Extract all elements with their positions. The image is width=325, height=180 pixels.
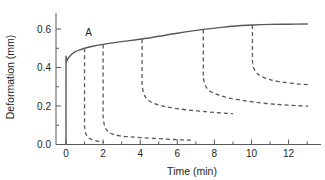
- chart-annotations: A: [85, 27, 92, 38]
- chart-canvas: 024681012 0.00.20.40.6 A Time (min) Defo…: [0, 0, 325, 180]
- creep-recovery-chart: 024681012 0.00.20.40.6 A Time (min) Defo…: [0, 0, 325, 180]
- y-tick-labels: 0.00.20.40.6: [37, 24, 51, 151]
- x-tick-label: 2: [100, 148, 106, 159]
- x-tick-label: 4: [137, 148, 143, 159]
- x-tick-label: 12: [283, 148, 295, 159]
- recovery-unload-4: [203, 29, 308, 106]
- y-tick-label: 0.2: [37, 101, 51, 112]
- data-series: [66, 24, 308, 145]
- recovery-unload-3: [142, 39, 233, 114]
- x-tick-label: 6: [175, 148, 181, 159]
- x-tick-label: 8: [212, 148, 218, 159]
- x-tick-label: 0: [63, 148, 69, 159]
- recovery-unload-5: [252, 25, 308, 85]
- x-axis-title: Time (min): [167, 165, 217, 177]
- axes: [56, 13, 321, 145]
- recovery-unload-2: [103, 44, 192, 140]
- creep-curve: [66, 24, 307, 145]
- point-a-label: A: [85, 27, 92, 38]
- y-axis-title: Deformation (mm): [4, 35, 16, 120]
- y-tick-label: 0.6: [37, 24, 51, 35]
- y-tick-label: 0.4: [37, 62, 51, 73]
- x-tick-label: 10: [246, 148, 258, 159]
- y-tick-label: 0.0: [37, 139, 51, 150]
- recovery-unload-1: [85, 48, 104, 142]
- x-tick-labels: 024681012: [63, 148, 294, 159]
- axis-spine: [56, 13, 321, 145]
